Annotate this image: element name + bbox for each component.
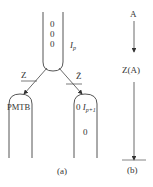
top-tube-label: Ip — [70, 41, 76, 53]
label-za: Z(A) — [122, 66, 140, 75]
left-tube-label: PMTB — [7, 103, 30, 112]
branch-right-label: Z̄ — [76, 72, 82, 81]
caption-a: (a) — [57, 167, 67, 176]
label-a: A — [130, 10, 137, 19]
top-tube-value-1: 0 — [50, 20, 55, 29]
right-tube-value: 0 — [83, 128, 88, 137]
diagram-canvas — [0, 0, 153, 187]
branch-left-label: Z — [21, 71, 27, 80]
right-tube-label: 0 Ip+1 — [76, 103, 96, 115]
top-tube-value-3: 0 — [50, 40, 55, 49]
caption-b: (b) — [127, 166, 138, 175]
top-tube-value-2: 0 — [50, 30, 55, 39]
